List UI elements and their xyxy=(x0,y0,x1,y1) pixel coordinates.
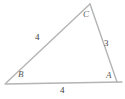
vertex-label-b: B xyxy=(18,70,24,79)
side-length-label-bc: 4 xyxy=(35,33,40,42)
vertex-label-a: A xyxy=(106,71,112,80)
triangle-figure: C B A 4 3 4 xyxy=(0,0,125,99)
side-length-label-ca: 3 xyxy=(104,39,109,48)
triangle-side-ab xyxy=(5,82,122,84)
side-length-label-ab: 4 xyxy=(60,86,65,95)
vertex-label-c: C xyxy=(83,10,89,19)
